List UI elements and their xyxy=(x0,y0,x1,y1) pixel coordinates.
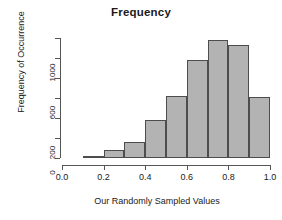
x-tick-label: 0.2 xyxy=(89,172,119,182)
y-tick-label: 1000 xyxy=(48,58,57,88)
histogram-bar xyxy=(166,96,187,158)
plot-area xyxy=(62,38,270,158)
x-axis-label: Our Randomly Sampled Values xyxy=(40,196,274,206)
histogram-bar xyxy=(83,156,104,158)
histogram-bar xyxy=(249,97,270,158)
histogram-bar xyxy=(124,142,145,158)
y-tick-mark xyxy=(55,38,60,39)
x-tick-mark xyxy=(145,165,146,170)
x-tick-label: 0.8 xyxy=(213,172,243,182)
x-axis-line xyxy=(62,165,270,166)
histogram-bar xyxy=(208,40,229,158)
histogram-bar xyxy=(104,150,125,158)
x-tick-label: 0.0 xyxy=(47,172,77,182)
histogram-bar xyxy=(145,120,166,158)
histogram-bar xyxy=(187,60,208,158)
x-tick-mark xyxy=(270,165,271,170)
x-tick-mark xyxy=(187,165,188,170)
y-tick-label: 600 xyxy=(48,98,57,128)
x-tick-label: 1.0 xyxy=(255,172,282,182)
y-axis-label: Frequency of Occurrence xyxy=(16,0,26,127)
y-tick-label: 200 xyxy=(48,138,57,168)
x-tick-mark xyxy=(228,165,229,170)
x-tick-mark xyxy=(104,165,105,170)
x-tick-mark xyxy=(62,165,63,170)
histogram-screenshot: Frequency Frequency of Occurrence Our Ra… xyxy=(0,0,282,220)
y-axis-line xyxy=(60,38,61,158)
x-tick-label: 0.6 xyxy=(172,172,202,182)
x-tick-label: 0.4 xyxy=(130,172,160,182)
page-title: Frequency xyxy=(0,6,282,18)
histogram-bar xyxy=(228,45,249,158)
